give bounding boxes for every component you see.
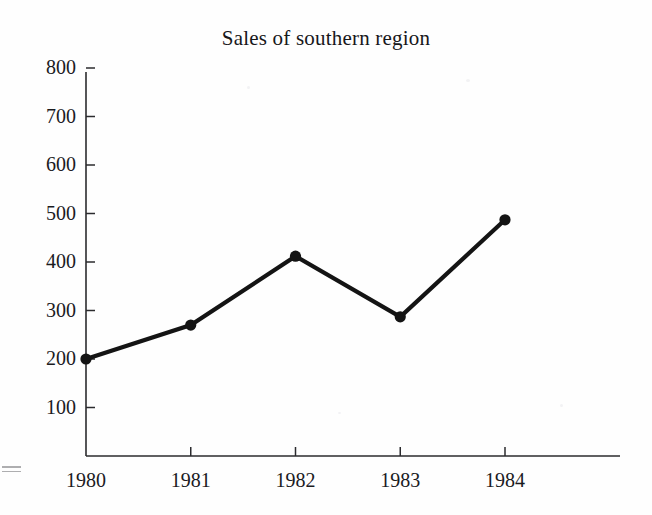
data-point-marker <box>80 353 91 364</box>
paper-speckle <box>338 412 341 414</box>
y-tick-label: 300 <box>18 300 76 320</box>
scan-artifact-equals-mark <box>2 466 21 475</box>
data-point-marker <box>185 319 196 330</box>
paper-speckle <box>466 79 470 82</box>
chart-figure: Sales of southern region 100200300400500… <box>0 0 652 515</box>
y-tick-label: 400 <box>18 251 76 271</box>
data-point-marker <box>395 311 406 322</box>
paper-speckle <box>247 86 250 89</box>
x-tick-label: 1980 <box>51 470 121 490</box>
data-series-line <box>86 220 505 359</box>
y-tick-label: 600 <box>18 154 76 174</box>
x-tick-label: 1981 <box>156 470 226 490</box>
y-tick-label: 500 <box>18 203 76 223</box>
y-tick-label: 700 <box>18 106 76 126</box>
paper-speckle <box>560 404 563 407</box>
data-point-marker <box>499 214 510 225</box>
x-tick-label: 1984 <box>470 470 540 490</box>
x-tick-label: 1982 <box>261 470 331 490</box>
y-tick-label: 200 <box>18 348 76 368</box>
line-chart-plot <box>0 0 652 515</box>
x-tick-label: 1983 <box>365 470 435 490</box>
y-tick-label: 100 <box>18 397 76 417</box>
y-tick-label: 800 <box>18 57 76 77</box>
x-axis-ticks <box>191 447 505 456</box>
data-point-marker <box>290 251 301 262</box>
